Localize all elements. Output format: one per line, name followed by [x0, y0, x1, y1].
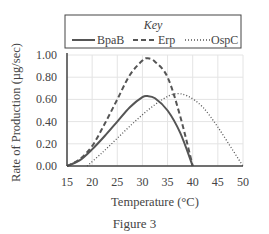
y-tick-label: 0.60: [36, 92, 57, 106]
legend-label-bpab: BpaB: [97, 33, 124, 47]
series-bpab: [67, 96, 193, 166]
line-chart: 0.000.200.400.600.801.001520253035404550…: [0, 0, 269, 234]
legend-label-erp: Erp: [158, 33, 175, 47]
figure-caption: Figure 3: [0, 216, 269, 232]
x-tick-label: 25: [111, 175, 123, 189]
y-tick-label: 0.00: [36, 159, 57, 173]
x-tick-label: 30: [136, 175, 148, 189]
x-tick-label: 35: [162, 175, 174, 189]
y-tick-label: 0.40: [36, 115, 57, 129]
y-tick-label: 0.20: [36, 137, 57, 151]
legend: KeyBpaBErpOspC: [65, 15, 241, 48]
x-tick-label: 15: [61, 175, 73, 189]
legend-title: Key: [143, 18, 163, 32]
x-tick-label: 20: [86, 175, 98, 189]
y-tick-label: 1.00: [36, 48, 57, 62]
x-tick-label: 45: [212, 175, 224, 189]
x-tick-label: 40: [187, 175, 199, 189]
series-erp: [67, 58, 193, 166]
x-axis-label: Temperature (°C): [111, 195, 199, 209]
legend-label-ospc: OspC: [211, 33, 238, 47]
x-tick-label: 50: [237, 175, 249, 189]
y-tick-label: 0.80: [36, 70, 57, 84]
y-axis-label: Rate of Production (µg/sec): [9, 43, 23, 182]
